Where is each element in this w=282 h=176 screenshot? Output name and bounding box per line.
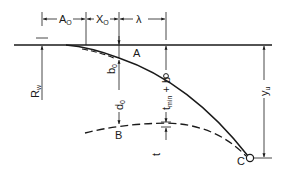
label-t: t [150, 153, 162, 156]
label-point-c: C [237, 155, 245, 167]
point-c-circle [246, 154, 253, 161]
label-point-b: B [115, 129, 122, 141]
upper-profile-dashed [82, 49, 116, 59]
label-yu: yu [258, 87, 271, 97]
label-b0: b0 [105, 64, 118, 74]
label-rw: Rw [29, 84, 42, 98]
label-x0: XO [96, 13, 109, 26]
label-d0: d0 [113, 100, 126, 110]
upper-profile-curve [66, 45, 248, 156]
label-a0: AO [59, 13, 72, 26]
label-tmin-b: tmin + b [160, 77, 173, 110]
label-point-a: A [133, 47, 141, 59]
label-lambda: λ [136, 13, 142, 25]
diagram: AO XO λ A B C Rw b0 d0 tmin + b t yu [0, 0, 282, 176]
lower-profile-dashed [85, 123, 246, 156]
